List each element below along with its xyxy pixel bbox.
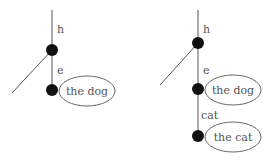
- left-label-h: h: [57, 23, 64, 36]
- right-node-e: [192, 83, 204, 95]
- right-ellipse1-label: the dog: [212, 84, 254, 97]
- left-node-root: [46, 44, 58, 56]
- right-node-root: [192, 37, 204, 49]
- left-node-e: [46, 84, 58, 96]
- right-node-cat: [192, 130, 204, 142]
- left-ellipse-label: the dog: [66, 85, 108, 98]
- right-label-cat: cat: [201, 109, 219, 122]
- left-label-e: e: [57, 64, 64, 77]
- right-tree: h e cat the dog the cat: [160, 10, 261, 152]
- right-label-e: e: [203, 64, 210, 77]
- left-tree: h e the dog: [12, 10, 115, 106]
- right-ellipse2-label: the cat: [214, 131, 253, 144]
- right-diagonal-edge: [160, 43, 198, 85]
- left-diagonal-edge: [12, 50, 52, 93]
- diagram-canvas: h e the dog h e cat the dog the cat: [0, 0, 271, 162]
- right-label-h: h: [203, 23, 210, 36]
